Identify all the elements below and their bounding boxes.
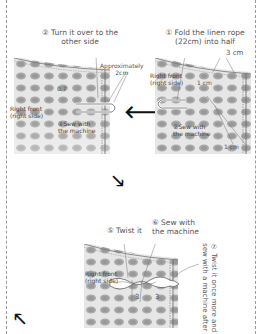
step1-label-line2: (22cm) into half <box>150 37 260 46</box>
right-front-line1: Right front <box>150 72 183 79</box>
step6-sew-label: ⑥ Sew with the machine <box>152 218 199 236</box>
step5-twist-label: ⑤ Twist it <box>107 226 142 235</box>
step2-label: ② Turn it over to the other side <box>30 28 130 46</box>
approx-2cm-label: Approximately 2cm <box>100 62 144 76</box>
step6-sew-line2: the machine <box>152 227 199 236</box>
right-front-line1: Right front <box>85 270 118 277</box>
measure-1cm: 1 cm <box>197 79 212 86</box>
step7-line2: sew with a machine after <box>200 243 209 332</box>
step7-line1: ⑦ Twist it once more and <box>209 243 218 332</box>
step7-vertical-label: ⑦ Twist it once more and sew with a mach… <box>200 243 218 332</box>
right-front-line1: Right front <box>10 105 43 112</box>
step4-sew-label: ④Sew with the machine <box>58 120 96 134</box>
left-dashed-border <box>6 0 7 334</box>
right-front-label-bottom: Right front (right side) <box>85 270 118 284</box>
step2-sew-line1: ②Sew with <box>173 123 211 130</box>
fabric-swatch-bottom <box>84 244 178 328</box>
right-front-line2: (right side) <box>150 79 183 86</box>
measure-3-a: 3 <box>135 294 139 301</box>
step1-label: ① Fold the linen rope (22cm) into half <box>150 28 260 46</box>
step2-sew-line2: the machine <box>173 130 211 137</box>
step1-label-line1: ① Fold the linen rope <box>150 28 260 37</box>
measure-0-7: 0.7 <box>57 85 67 92</box>
step4-sew-line1: ④Sew with <box>58 120 96 127</box>
step7-leader-line <box>165 262 205 292</box>
step2-sew-label: ②Sew with the machine <box>173 123 211 137</box>
right-front-line2: (right side) <box>10 112 43 119</box>
down-right-arrow-icon: 🡖 <box>112 172 124 190</box>
right-front-label-left: Right front (right side) <box>10 105 43 119</box>
approx-line2: 2cm <box>100 69 144 76</box>
approx-line1: Approximately <box>100 62 144 69</box>
up-left-arrow-icon: 🡔 <box>14 310 26 328</box>
step2-label-line1: ② Turn it over to the <box>30 28 130 37</box>
measure-3-b: 3 <box>155 294 159 301</box>
step4-sew-line2: the machine <box>58 127 96 134</box>
right-dashed-border <box>255 0 256 334</box>
step6-sew-line1: ⑥ Sew with <box>152 218 199 227</box>
measure-3cm: 3 cm <box>226 50 243 57</box>
measure-bottom-1cm: 1 cm <box>224 143 239 150</box>
right-front-line2: (right side) <box>85 277 118 284</box>
right-front-label-right: Right front (right side) <box>150 72 183 86</box>
step2-label-line2: other side <box>30 37 130 46</box>
